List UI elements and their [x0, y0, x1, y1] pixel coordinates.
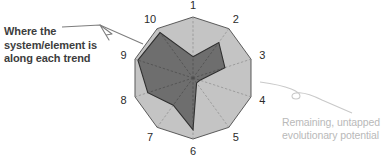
axis-label-1: 1: [190, 0, 196, 11]
callout-right-text: Remaining, untapped evolutionary potenti…: [282, 116, 392, 142]
axis-label-3: 3: [259, 49, 265, 61]
axis-label-5: 5: [233, 131, 239, 143]
axis-label-10: 10: [144, 13, 156, 25]
axis-label-9: 9: [121, 49, 127, 61]
right-pointer-squiggle: [260, 82, 352, 113]
axis-label-4: 4: [259, 94, 265, 106]
axis-label-7: 7: [147, 131, 153, 143]
callout-left-text: Where the system/element is along each t…: [4, 25, 112, 66]
axis-label-6: 6: [190, 145, 196, 156]
axis-label-8: 8: [121, 94, 127, 106]
axis-label-2: 2: [233, 13, 239, 25]
